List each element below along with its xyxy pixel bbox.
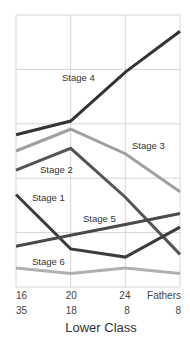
x-tick-label: 20 [66, 290, 77, 301]
x-tick-count: 8 [124, 305, 130, 316]
series-label: Stage 5 [83, 213, 116, 224]
line-chart: Stage 4Stage 3Stage 2Stage 1Stage 5Stage… [0, 0, 190, 310]
series-label: Stage 6 [32, 256, 65, 267]
series-label: Stage 4 [62, 72, 95, 83]
series-label: Stage 1 [32, 192, 65, 203]
x-axis-label: Lower Class [0, 320, 190, 335]
x-tick-label: 16 [16, 290, 27, 301]
series-label: Stage 3 [132, 140, 165, 151]
x-tick-count: 18 [66, 305, 77, 316]
series-label: Stage 2 [40, 164, 73, 175]
grid [16, 15, 180, 287]
series-lines [16, 31, 180, 273]
x-tick-count: 8 [175, 305, 181, 316]
series-line-stage-4 [16, 31, 180, 134]
x-tick-label: Fathers [147, 290, 181, 301]
x-tick-label: 24 [119, 290, 130, 301]
x-tick-count: 35 [16, 305, 27, 316]
series-line-stage-1 [16, 195, 180, 258]
series-line-stage-6 [16, 268, 180, 273]
